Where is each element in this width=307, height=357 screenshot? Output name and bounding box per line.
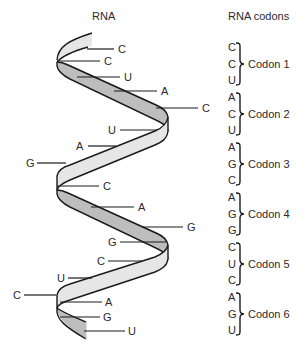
helix-base: G [108,236,117,248]
brace-icon [236,193,244,235]
codon-label: Codon 4 [248,208,290,220]
codon-group: C C U Codon 1 [228,41,290,86]
codon-base: G [228,224,237,236]
codon-list: C C U Codon 1 A C U Codon 2 A G C Codon … [228,41,290,336]
helix-base: C [118,43,126,55]
rna-title: RNA [92,10,116,22]
codon-group: A G G Codon 4 [228,191,290,236]
brace-icon [236,93,244,135]
codon-base: U [228,74,236,86]
codon-label: Codon 5 [248,258,290,270]
codon-base: A [228,141,236,153]
codon-base: C [228,108,236,120]
codon-base: C [228,241,236,253]
rna-codons-title: RNA codons [228,10,290,22]
helix-base: A [138,201,146,213]
codon-base: C [228,174,236,186]
codon-group: C U C Codon 5 [228,241,290,286]
codon-base: G [228,208,237,220]
codon-base: C [228,274,236,286]
helix-base: U [108,124,116,136]
helix-base: U [57,272,65,284]
helix-base: C [104,55,112,67]
helix-base: A [76,140,84,152]
helix-base: U [128,325,136,337]
helix-base: G [103,311,112,323]
codon-base: A [228,191,236,203]
brace-icon [236,243,244,285]
codon-base: A [228,291,236,303]
codon-group: A C U Codon 2 [228,91,290,136]
codon-group: A G U Codon 6 [228,291,290,336]
codon-base: A [228,91,236,103]
codon-label: Codon 1 [248,58,290,70]
codon-base: G [228,158,237,170]
codon-base: U [228,124,236,136]
helix-base: U [124,71,132,83]
helix-base: A [105,296,113,308]
codon-base: C [228,58,236,70]
helix-base: G [26,157,35,169]
helix-base: G [187,221,196,233]
codon-label: Codon 6 [248,308,290,320]
helix-base: C [202,102,210,114]
codon-label: Codon 2 [248,108,290,120]
helix-base: C [97,255,105,267]
codon-group: A G C Codon 3 [228,141,290,186]
helix-base: A [161,85,169,97]
helix-base: C [103,180,111,192]
codon-base: G [228,308,237,320]
codon-label: Codon 3 [248,158,290,170]
brace-icon [236,293,244,335]
helix-base: C [13,289,21,301]
brace-icon [236,43,244,85]
codon-base: U [228,258,236,270]
rna-diagram: RNA RNA codons [0,0,307,357]
brace-icon [236,143,244,185]
codon-base: C [228,41,236,53]
codon-base: U [228,324,236,336]
